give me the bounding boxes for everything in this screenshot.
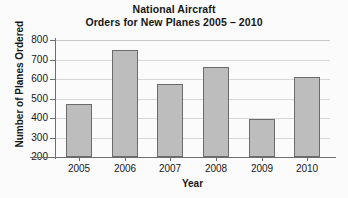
y-tick-label-600: 600 [18, 74, 48, 84]
y-tick-mark-600 [50, 79, 56, 80]
x-axis-title: Year [55, 178, 330, 189]
y-tick-mark-500 [50, 99, 56, 100]
x-tick-mark-2006 [125, 157, 126, 161]
y-axis-tick-labels: 200300400500600700800 [16, 0, 48, 198]
x-tick-mark-2007 [170, 157, 171, 161]
y-tick-mark-700 [50, 60, 56, 61]
plot-area [56, 40, 330, 157]
x-tick-mark-2005 [79, 157, 80, 161]
chart-title: National Aircraft Orders for New Planes … [0, 3, 348, 29]
bar-chart-figure: National Aircraft Orders for New Planes … [0, 0, 348, 198]
y-tick-label-500: 500 [18, 94, 48, 104]
x-tick-label-2005: 2005 [56, 163, 102, 174]
y-tick-label-700: 700 [18, 55, 48, 65]
x-tick-label-2006: 2006 [102, 163, 148, 174]
x-tick-mark-2010 [307, 157, 308, 161]
x-tick-label-2010: 2010 [284, 163, 330, 174]
gridline-600 [56, 79, 330, 80]
gridline-400 [56, 118, 330, 119]
gridline-700 [56, 60, 330, 61]
y-tick-mark-800 [50, 40, 56, 41]
y-tick-mark-300 [50, 138, 56, 139]
x-tick-label-2008: 2008 [193, 163, 239, 174]
y-tick-label-400: 400 [18, 113, 48, 123]
y-tick-label-800: 800 [18, 35, 48, 45]
x-tick-label-2009: 2009 [239, 163, 285, 174]
gridline-800 [56, 40, 330, 41]
chart-title-line-2: Orders for New Planes 2005 – 2010 [0, 16, 348, 29]
bar-2008 [203, 67, 229, 157]
x-tick-mark-2008 [216, 157, 217, 161]
bar-2010 [294, 77, 320, 157]
x-axis-line [30, 157, 336, 158]
y-tick-mark-400 [50, 118, 56, 119]
x-tick-label-2007: 2007 [147, 163, 193, 174]
gridline-500 [56, 99, 330, 100]
bar-2007 [157, 84, 183, 157]
bar-2009 [249, 119, 275, 157]
y-tick-label-300: 300 [18, 133, 48, 143]
x-tick-mark-2009 [262, 157, 263, 161]
bar-2006 [112, 50, 138, 157]
bar-2005 [66, 104, 92, 157]
y-tick-mark-200 [50, 157, 56, 158]
chart-title-line-1: National Aircraft [0, 3, 348, 16]
gridline-300 [56, 138, 330, 139]
